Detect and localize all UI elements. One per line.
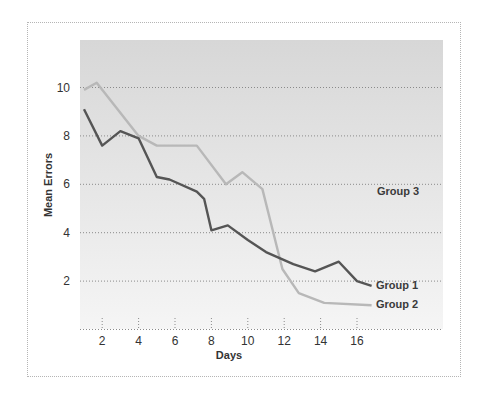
x-tick-label: 2 [99, 334, 106, 348]
y-tick-label: 4 [63, 226, 70, 240]
y-tick-label: 8 [63, 129, 70, 143]
x-tick-label: 12 [278, 334, 292, 348]
line-chart: 246810121416 246810 Mean Errors Days Gro… [0, 0, 479, 396]
x-axis-title: Days [216, 349, 242, 361]
y-axis: 246810 [57, 81, 71, 289]
label-group-3: Group 3 [377, 185, 419, 197]
x-tick-label: 10 [241, 334, 255, 348]
x-tick-label: 14 [314, 334, 328, 348]
x-tick-label: 8 [208, 334, 215, 348]
x-tick-label: 16 [350, 334, 364, 348]
x-tick-label: 6 [172, 334, 179, 348]
x-tick-label: 4 [135, 334, 142, 348]
y-tick-label: 6 [63, 177, 70, 191]
y-axis-title: Mean Errors [42, 153, 54, 217]
y-tick-label: 10 [57, 81, 71, 95]
y-tick-label: 2 [63, 274, 70, 288]
label-group-2: Group 2 [376, 298, 418, 310]
label-group-1: Group 1 [376, 279, 418, 291]
